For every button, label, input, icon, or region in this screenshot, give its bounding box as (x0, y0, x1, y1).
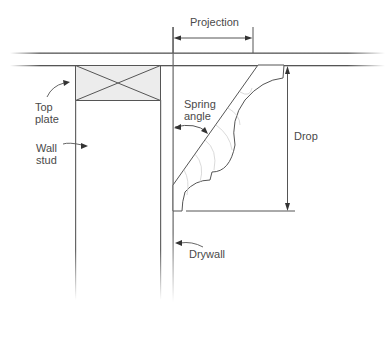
projection-label: Projection (190, 16, 239, 28)
drop-label: Drop (294, 130, 318, 142)
wall-stud-label: Wall stud (36, 142, 57, 166)
projection-dimension (173, 27, 253, 53)
leader-arrows (47, 83, 203, 247)
top-plate-label: Top plate (35, 101, 59, 125)
crown-molding (173, 65, 284, 211)
drywall (173, 27, 174, 302)
spring-angle-arc (174, 124, 208, 134)
top-plate (76, 66, 161, 101)
wall-stud (75, 100, 161, 300)
ceiling (10, 53, 385, 67)
leader-arrowheads (63, 80, 182, 246)
drop-dimension (186, 66, 295, 211)
crown-molding-diagram (0, 0, 392, 355)
drywall-label: Drywall (189, 248, 225, 260)
spring-angle-label: Spring angle (184, 98, 216, 122)
